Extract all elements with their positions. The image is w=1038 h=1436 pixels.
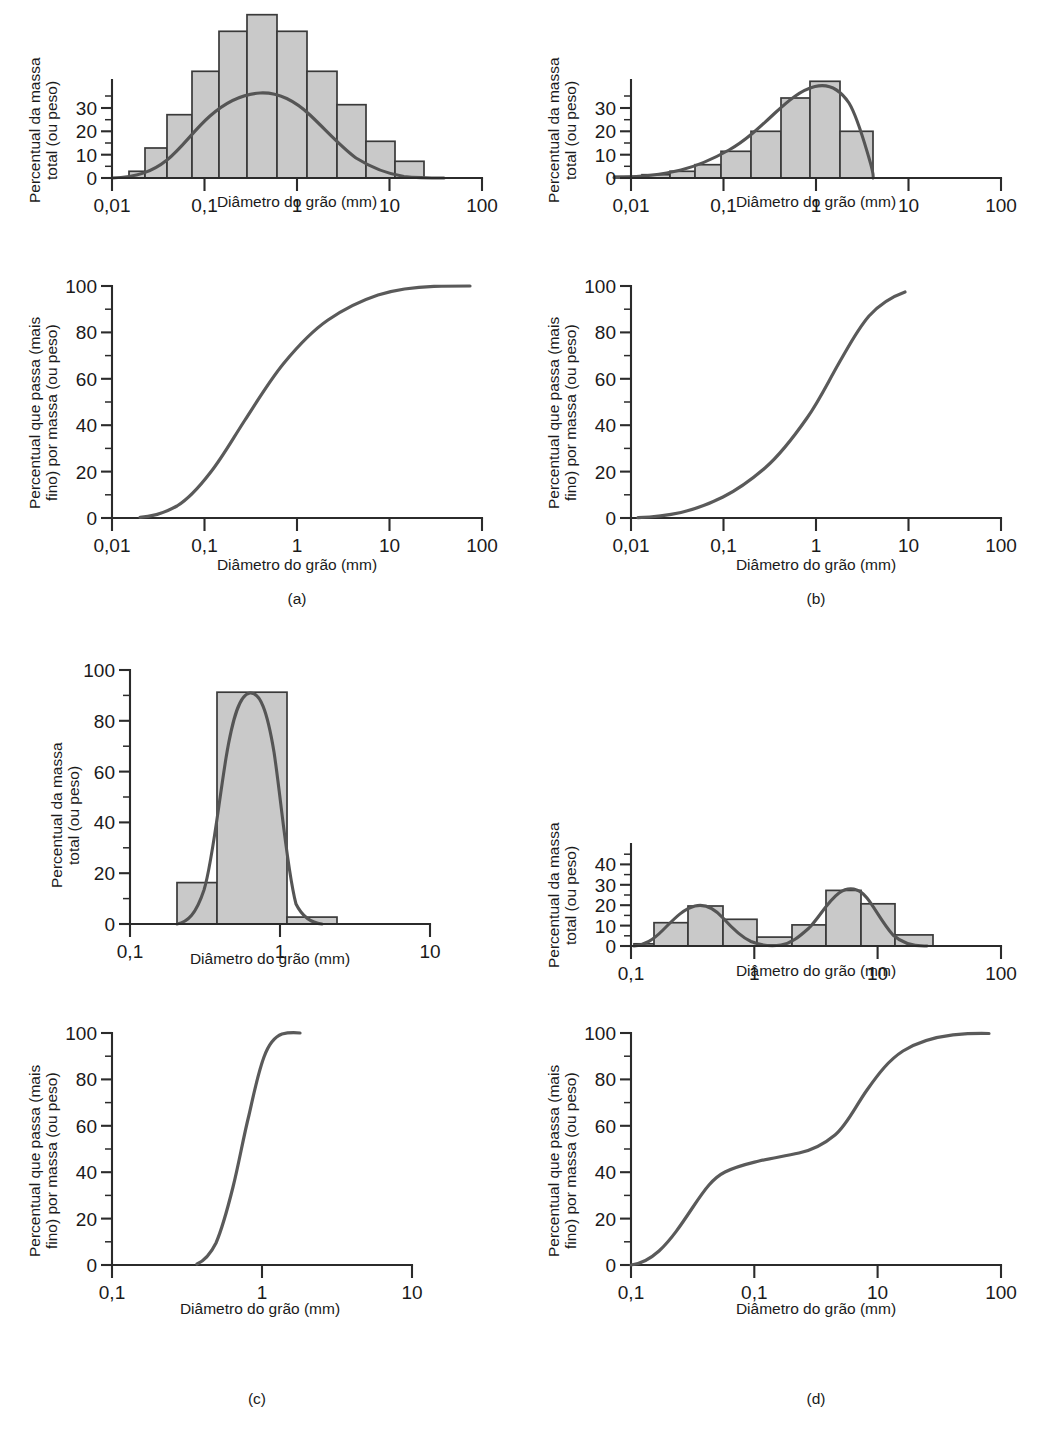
svg-text:80: 80 xyxy=(595,1069,616,1090)
d-cum-axes: 0 20 40 60 80 100 0,1 0,1 10 100 xyxy=(584,1023,1017,1303)
panel-label-b: (b) xyxy=(731,590,901,608)
panel-d-cum-xlabel: Diâmetro do grão (mm) xyxy=(631,1300,1001,1318)
svg-text:80: 80 xyxy=(94,711,115,732)
svg-text:0: 0 xyxy=(605,936,616,957)
ylabel-line1: Percentual que passa (mais xyxy=(26,1065,43,1257)
panel-c-hist-ylabel: Percentual da massa total (ou peso) xyxy=(48,715,100,915)
bar xyxy=(277,31,307,178)
ylabel-line1: Percentual da massa xyxy=(545,57,562,203)
panel-c-histogram-svg: 0 20 40 60 80 100 0,1 1 10 xyxy=(100,648,480,958)
panel-b-hist-xlabel: Diâmetro do grão (mm) xyxy=(631,193,1001,211)
a-hist-plot xyxy=(112,15,444,178)
panel-c-hist-xlabel: Diâmetro do grão (mm) xyxy=(100,950,440,968)
ylabel-line2: total (ou peso) xyxy=(43,80,60,179)
svg-text:0: 0 xyxy=(605,168,616,189)
panel-d-cum-ylabel: Percentual que passa (mais fino) por mas… xyxy=(545,1020,597,1302)
panel-label-a: (a) xyxy=(212,590,382,608)
svg-text:0: 0 xyxy=(104,914,115,935)
panel-b-histogram-svg: 0 10 20 30 0,01 0,1 1 10 100 xyxy=(601,68,1021,193)
panel-a-histogram-svg: 0 10 20 30 0,01 0,1 1 10 100 xyxy=(82,68,502,193)
svg-text:60: 60 xyxy=(595,1116,616,1137)
ylabel-line1: Percentual da massa xyxy=(48,742,65,888)
panel-b-cumulative-svg: 0 20 40 60 80 100 0,01 0,1 1 10 100 xyxy=(601,268,1021,558)
ylabel-line2: fino) por massa (ou peso) xyxy=(43,325,60,502)
panel-a: Percentual da massa total (ou peso) xyxy=(0,0,519,620)
bar xyxy=(810,81,840,178)
panel-label-d: (d) xyxy=(731,1390,901,1408)
svg-text:40: 40 xyxy=(76,1162,97,1183)
svg-text:0: 0 xyxy=(605,508,616,529)
svg-text:100: 100 xyxy=(466,535,498,556)
svg-text:20: 20 xyxy=(76,1209,97,1230)
svg-text:60: 60 xyxy=(595,369,616,390)
svg-text:10: 10 xyxy=(898,535,919,556)
svg-text:10: 10 xyxy=(76,145,97,166)
svg-text:0: 0 xyxy=(86,168,97,189)
svg-text:0,01: 0,01 xyxy=(613,535,650,556)
svg-text:0: 0 xyxy=(86,1255,97,1276)
svg-text:0,1: 0,1 xyxy=(191,535,217,556)
bar xyxy=(781,98,810,178)
bar xyxy=(721,151,751,178)
svg-text:60: 60 xyxy=(76,1116,97,1137)
b-cum-axes: 0 20 40 60 80 100 0,01 0,1 1 10 100 xyxy=(584,276,1017,556)
svg-text:100: 100 xyxy=(584,276,616,297)
svg-text:40: 40 xyxy=(595,854,616,875)
svg-text:100: 100 xyxy=(83,660,115,681)
panel-a-cumulative-svg: 0 20 40 60 80 100 0,01 0,1 1 10 100 xyxy=(82,268,502,558)
panel-a-hist-ylabel: Percentual da massa total (ou peso) xyxy=(26,55,78,205)
svg-text:1: 1 xyxy=(292,535,303,556)
svg-text:40: 40 xyxy=(595,415,616,436)
panel-d-hist-ylabel: Percentual da massa total (ou peso) xyxy=(545,815,597,975)
panel-c-cum-ylabel: Percentual que passa (mais fino) por mas… xyxy=(26,1020,78,1302)
panel-a-hist-xlabel: Diâmetro do grão (mm) xyxy=(112,193,482,211)
ylabel-line2: total (ou peso) xyxy=(562,80,579,179)
svg-text:20: 20 xyxy=(595,895,616,916)
ylabel-line2: fino) por massa (ou peso) xyxy=(562,1073,579,1250)
panel-c: Percentual da massa total (ou peso) 0 20… xyxy=(0,640,519,1436)
d-hist-plot xyxy=(634,889,933,946)
ylabel-line1: Percentual que passa (mais xyxy=(545,317,562,509)
svg-text:80: 80 xyxy=(76,1069,97,1090)
d-cumulative-curve xyxy=(631,1033,989,1265)
panel-a-cum-xlabel: Diâmetro do grão (mm) xyxy=(112,556,482,574)
svg-text:0,01: 0,01 xyxy=(94,535,131,556)
bar xyxy=(337,105,366,178)
bar xyxy=(217,692,287,924)
svg-text:0,1: 0,1 xyxy=(710,535,736,556)
svg-text:40: 40 xyxy=(94,812,115,833)
c-cum-axes: 0 20 40 60 80 100 0,1 1 10 xyxy=(65,1023,422,1303)
svg-text:100: 100 xyxy=(584,1023,616,1044)
svg-text:0: 0 xyxy=(605,1255,616,1276)
panel-b-cum-xlabel: Diâmetro do grão (mm) xyxy=(631,556,1001,574)
panel-c-cum-xlabel: Diâmetro do grão (mm) xyxy=(90,1300,430,1318)
bar xyxy=(861,904,895,946)
panel-c-cumulative-svg: 0 20 40 60 80 100 0,1 1 10 xyxy=(82,1015,482,1305)
svg-text:100: 100 xyxy=(65,1023,97,1044)
svg-text:1: 1 xyxy=(811,535,822,556)
svg-text:100: 100 xyxy=(65,276,97,297)
svg-text:100: 100 xyxy=(985,535,1017,556)
ylabel-line1: Percentual da massa xyxy=(26,57,43,203)
panel-b-hist-ylabel: Percentual da massa total (ou peso) xyxy=(545,55,597,205)
panel-d: Percentual da massa total (ou peso) xyxy=(519,640,1038,1436)
b-hist-plot xyxy=(614,81,873,178)
panel-b: Percentual da massa total (ou peso) xyxy=(519,0,1038,620)
svg-text:10: 10 xyxy=(595,916,616,937)
panel-d-histogram-svg: 0 10 20 30 40 0,1 1 10 100 xyxy=(601,836,1021,961)
svg-text:20: 20 xyxy=(94,863,115,884)
svg-text:20: 20 xyxy=(595,1209,616,1230)
svg-text:60: 60 xyxy=(76,369,97,390)
ylabel-line2: fino) por massa (ou peso) xyxy=(562,325,579,502)
panel-d-hist-xlabel: Diâmetro do grão (mm) xyxy=(631,962,1001,980)
bar xyxy=(247,15,277,178)
svg-text:10: 10 xyxy=(379,535,400,556)
panel-a-cum-ylabel: Percentual que passa (mais fino) por mas… xyxy=(26,272,78,554)
svg-text:30: 30 xyxy=(595,875,616,896)
svg-text:80: 80 xyxy=(76,322,97,343)
ylabel-line2: fino) por massa (ou peso) xyxy=(43,1073,60,1250)
panel-d-cumulative-svg: 0 20 40 60 80 100 0,1 0,1 10 100 xyxy=(601,1015,1021,1305)
svg-text:20: 20 xyxy=(76,121,97,142)
ylabel-line1: Percentual que passa (mais xyxy=(26,317,43,509)
svg-text:40: 40 xyxy=(76,415,97,436)
